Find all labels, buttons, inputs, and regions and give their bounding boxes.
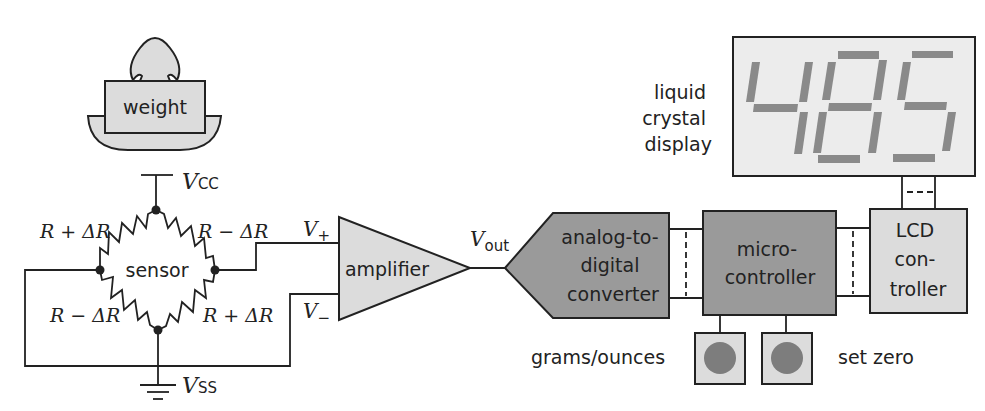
wheatstone-bridge <box>25 175 300 399</box>
weight-knob <box>131 38 180 81</box>
resistor-bottom-left-label: R − ΔR <box>49 304 120 326</box>
resistor-bottom-right-label: R + ΔR <box>202 304 273 326</box>
bus-adc-mcu <box>669 229 703 298</box>
v-plus-label: V+ <box>303 217 330 245</box>
set-zero-label: set zero <box>838 346 914 368</box>
vcc-label: VCC <box>182 169 219 194</box>
bus-mcu-lcdctl <box>836 228 870 296</box>
node-left <box>96 266 105 275</box>
node-top <box>152 206 161 215</box>
microcontroller-block <box>703 211 836 315</box>
grams-ounces-label: grams/ounces <box>531 346 665 368</box>
resistor-top-right-label: R − ΔR <box>197 220 268 242</box>
grams-ounces-button[interactable] <box>695 333 745 384</box>
bus-lcdctl-display <box>902 176 935 209</box>
button-dot-icon <box>771 342 803 374</box>
weight-label: weight <box>123 96 187 118</box>
node-right <box>211 266 220 275</box>
resistor-top-left-label: R + ΔR <box>39 220 110 242</box>
amplifier-label: amplifier <box>345 258 429 280</box>
sensor-label: sensor <box>126 259 189 281</box>
weight-on-pan: weight <box>88 38 221 150</box>
set-zero-button[interactable] <box>762 333 812 384</box>
button-dot-icon <box>704 342 736 374</box>
v-out-label: Vout <box>470 227 509 255</box>
node-bottom <box>154 326 163 335</box>
vss-label: VSS <box>182 373 217 398</box>
v-minus-label: V− <box>303 299 330 327</box>
lcd-controller-label: LCD con- troller <box>890 219 947 300</box>
lcd-display-label: liquid crystal display <box>642 81 712 155</box>
